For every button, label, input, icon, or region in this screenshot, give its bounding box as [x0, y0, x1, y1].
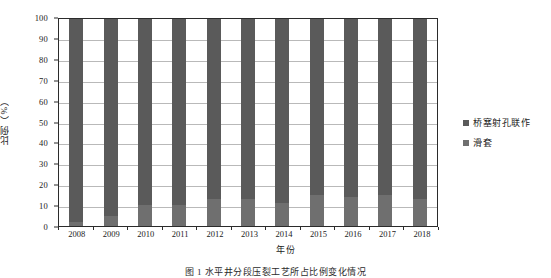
y-tick-label: 20	[39, 180, 48, 190]
bar-segment-huatao	[207, 199, 221, 226]
x-minor-tick	[438, 227, 439, 230]
x-tick-label: 2010	[137, 229, 151, 243]
bar-segment-qiaosai	[241, 19, 255, 199]
bar-segment-huatao	[378, 195, 392, 226]
bar-segment-qiaosai	[172, 19, 186, 205]
x-axis-labels: 2008200920102011201220132014201520162017…	[58, 229, 438, 243]
x-tick-label: 2016	[345, 229, 359, 243]
x-tick-label: 2008	[68, 229, 82, 243]
bar-segment-qiaosai	[207, 19, 221, 199]
y-axis-title: 比例（%）	[0, 96, 10, 145]
bar-group	[413, 19, 427, 226]
bar-segment-qiaosai	[378, 19, 392, 195]
bar-segment-qiaosai	[344, 19, 358, 197]
bar-segment-huatao	[104, 216, 118, 226]
legend: 桥塞射孔联作滑套	[463, 116, 530, 149]
x-tick-label: 2014	[275, 229, 289, 243]
legend-item: 桥塞射孔联作	[463, 116, 530, 129]
bar-segment-qiaosai	[275, 19, 289, 203]
x-tick-label: 2015	[310, 229, 324, 243]
y-tick-label: 90	[39, 34, 48, 44]
bar-segment-qiaosai	[104, 19, 118, 216]
plot-area	[58, 18, 438, 227]
x-tick-label: 2013	[241, 229, 255, 243]
bar-group	[275, 19, 289, 226]
bars-layer	[59, 19, 437, 226]
x-tick-label: 2011	[172, 229, 186, 243]
bar-segment-qiaosai	[138, 19, 152, 205]
legend-label: 桥塞射孔联作	[473, 116, 530, 129]
bar-segment-qiaosai	[413, 19, 427, 199]
y-tick-label: 40	[39, 138, 48, 148]
y-tick-label: 80	[39, 55, 48, 65]
bar-group	[172, 19, 186, 226]
x-tick-label: 2009	[103, 229, 117, 243]
bar-segment-huatao	[275, 203, 289, 226]
figure-caption: 图 1 水平井分段压裂工艺所占比例变化情况	[0, 265, 551, 278]
legend-swatch	[463, 140, 469, 146]
x-tick-label: 2017	[379, 229, 393, 243]
y-tick-label: 10	[39, 201, 48, 211]
legend-label: 滑套	[473, 136, 492, 149]
y-tick-label: 70	[39, 76, 48, 86]
y-tick-label: 100	[35, 13, 48, 23]
legend-swatch	[463, 120, 469, 126]
bar-group	[241, 19, 255, 226]
bar-segment-huatao	[241, 199, 255, 226]
bar-segment-huatao	[172, 205, 186, 226]
x-tick-label: 2012	[206, 229, 220, 243]
bar-group	[344, 19, 358, 226]
y-tick-label: 30	[39, 159, 48, 169]
bar-segment-qiaosai	[69, 19, 83, 222]
bar-segment-huatao	[310, 195, 324, 226]
bar-segment-huatao	[344, 197, 358, 226]
bar-group	[69, 19, 83, 226]
x-tick-label: 2018	[414, 229, 428, 243]
bar-group	[310, 19, 324, 226]
y-tick-label: 60	[39, 97, 48, 107]
y-tick-label: 50	[39, 118, 48, 128]
x-axis-title: 年份	[0, 243, 551, 256]
legend-item: 滑套	[463, 136, 530, 149]
bar-group	[207, 19, 221, 226]
bar-group	[104, 19, 118, 226]
bar-group	[138, 19, 152, 226]
bar-segment-huatao	[138, 205, 152, 226]
bar-segment-qiaosai	[310, 19, 324, 195]
bar-group	[378, 19, 392, 226]
bar-segment-huatao	[69, 222, 83, 226]
bar-segment-huatao	[413, 199, 427, 226]
y-tick-label: 0	[44, 222, 48, 232]
